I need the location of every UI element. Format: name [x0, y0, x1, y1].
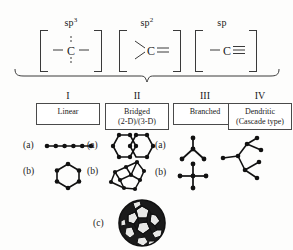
- bracket-right-sp2: [173, 30, 181, 72]
- category-box-dendritic[interactable]: Dendritic (Cascade type): [228, 103, 292, 130]
- bracket-left-sp: [195, 30, 203, 72]
- category-title-1: Linear: [58, 107, 79, 116]
- hybridization-label-sp2: sp2: [117, 16, 177, 28]
- structure-label-c1b: (b): [23, 166, 34, 176]
- category-box-linear[interactable]: Linear: [36, 103, 100, 125]
- hybridization-cell-sp3: C: [34, 30, 108, 70]
- structure-label-c2b: (b): [87, 166, 98, 176]
- hyb-sp2-base: sp: [141, 17, 150, 28]
- hybridization-label-sp: sp: [192, 16, 252, 28]
- category-title-2: Bridged: [124, 107, 150, 116]
- category-numeral-2: II: [104, 90, 170, 101]
- structure-hexagon-ring: [52, 160, 84, 192]
- hyb-sp3-sup: 3: [74, 16, 78, 24]
- hybridization-cell-sp2: C: [113, 30, 187, 70]
- category-title-4: Dendritic: [245, 107, 275, 116]
- bracket-right-sp: [249, 30, 257, 72]
- structure-four-branch-node: [176, 160, 210, 192]
- hyb-sp3-base: sp: [65, 17, 74, 28]
- structure-cage-3d: [106, 158, 148, 194]
- figure-root: sp3 C sp2 C sp: [0, 0, 293, 250]
- structure-label-c3a: (a): [155, 140, 166, 150]
- hybridization-cell-sp: C: [189, 30, 263, 70]
- hyb-sp-base: sp: [217, 17, 226, 28]
- bracket-left-sp2: [119, 30, 127, 72]
- svg-text:C: C: [67, 44, 75, 58]
- structure-dendrimer-tree: [219, 134, 277, 184]
- hybridization-label-sp3: sp3: [41, 16, 101, 28]
- bracket-right-sp3: [94, 30, 102, 72]
- category-subtitle-2: (2-D)/(3-D): [107, 117, 167, 127]
- category-subtitle-4: (Cascade type): [230, 117, 290, 127]
- structure-fullerene-c60: [116, 197, 168, 249]
- category-numeral-1: I: [35, 90, 101, 101]
- category-box-bridged[interactable]: Bridged (2-D)/(3-D): [105, 103, 169, 130]
- svg-text:C: C: [147, 44, 155, 58]
- structure-label-c3b: (b): [155, 167, 166, 177]
- bracket-left-sp3: [40, 30, 48, 72]
- structure-label-c2a: (a): [87, 140, 98, 150]
- grouping-brace: [12, 68, 282, 84]
- structure-label-c1a: (a): [23, 140, 34, 150]
- hyb-sp2-sup: 2: [150, 16, 154, 24]
- category-numeral-4: IV: [227, 90, 293, 101]
- svg-text:C: C: [223, 44, 231, 58]
- category-title-3: Branched: [190, 107, 221, 116]
- structure-label-fullerene: (c): [93, 218, 104, 228]
